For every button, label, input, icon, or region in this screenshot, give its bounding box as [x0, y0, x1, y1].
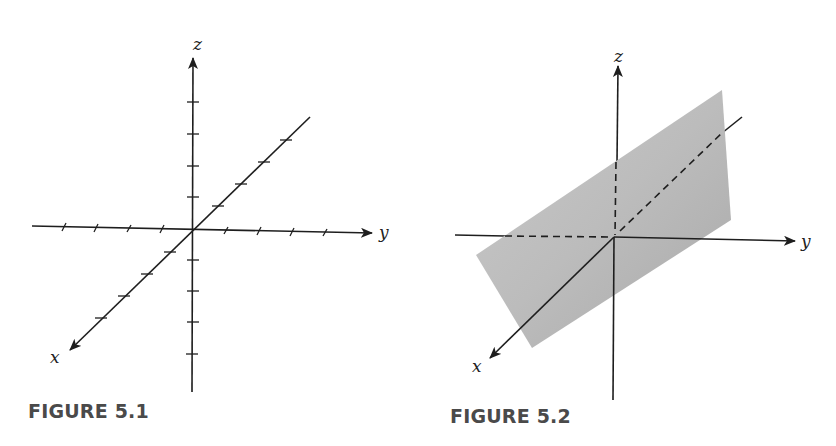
z-axis-label: z [613, 46, 624, 66]
x-axis-label: x [472, 356, 482, 376]
x-axis [70, 117, 310, 350]
z-axis-lower [613, 237, 614, 400]
z-axis-upper [617, 66, 618, 162]
y-axis-label: y [378, 222, 389, 242]
y-axis [32, 226, 372, 233]
figures-canvas: z y x z y x [0, 0, 836, 446]
y-axis-label: y [800, 231, 811, 251]
figure-5-2: z y x [455, 46, 811, 400]
figure-5-1: z y x [32, 34, 389, 392]
z-axis [192, 58, 193, 392]
y-axis-hidden [505, 236, 612, 237]
plane [476, 90, 731, 348]
x-axis-label: x [50, 347, 60, 367]
x-axis-negative-outside [722, 117, 742, 133]
y-axis-negative-outside [455, 235, 505, 236]
figure-5-1-caption: FIGURE 5.1 [28, 400, 149, 422]
z-axis-label: z [192, 34, 203, 54]
figure-5-2-caption: FIGURE 5.2 [450, 405, 571, 427]
